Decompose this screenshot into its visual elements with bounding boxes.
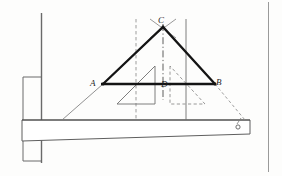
vertex-label-c: C bbox=[158, 16, 164, 25]
vertex-a-dot-icon bbox=[102, 83, 105, 86]
vertex-c-dot-icon bbox=[162, 26, 165, 29]
vertex-label-d: D bbox=[161, 80, 168, 89]
vertex-label-a: A bbox=[90, 79, 96, 88]
figure-canvas: A B C D bbox=[0, 0, 282, 176]
technical-drawing bbox=[0, 0, 282, 176]
vertex-label-b: B bbox=[216, 78, 222, 87]
paper-background bbox=[0, 0, 282, 176]
